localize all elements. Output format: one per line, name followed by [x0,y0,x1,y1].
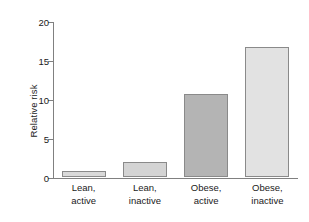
y-tick-label: 5 [44,134,49,145]
x-axis-line [53,178,298,179]
bar-lean-active [62,171,106,177]
bar-lean-inactive [123,162,167,177]
x-axis-label-2: Lean,inactive [114,182,175,207]
x-axis-label-line: Lean, [53,182,114,195]
y-tick-label: 20 [38,17,49,28]
x-axis-label-line: active [176,195,237,208]
y-tick-label: 0 [44,173,49,184]
bar-chart: Relative risk 05101520 Lean,activeLean,i… [0,0,309,222]
x-axis-label-1: Lean,active [53,182,114,207]
x-axis-label-line: inactive [237,195,298,208]
y-tick-label: 15 [38,56,49,67]
bar-obese-inactive [245,47,289,177]
bar-obese-active [184,94,228,177]
x-axis-label-line: active [53,195,114,208]
x-axis-label-4: Obese,inactive [237,182,298,207]
x-axis-label-line: inactive [114,195,175,208]
y-axis-title: Relative risk [22,0,44,222]
plot-area: 05101520 Lean,activeLean,inactiveObese,a… [53,22,298,178]
x-axis-label-3: Obese,active [176,182,237,207]
y-tick-label: 10 [38,95,49,106]
x-axis-label-line: Lean, [114,182,175,195]
x-axis-label-line: Obese, [237,182,298,195]
x-axis-label-line: Obese, [176,182,237,195]
y-axis-line [53,22,54,179]
